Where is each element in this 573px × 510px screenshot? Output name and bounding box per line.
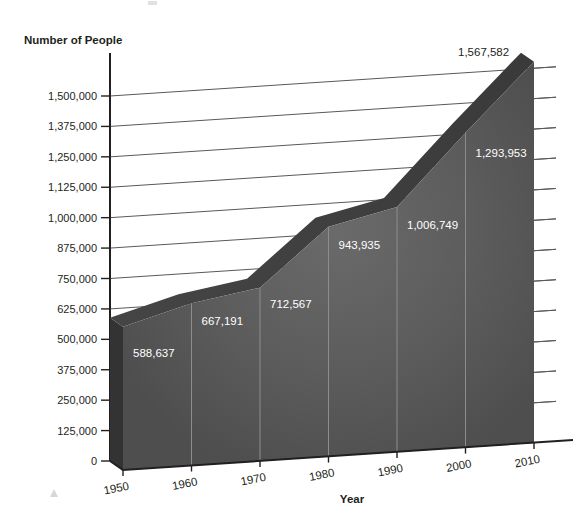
scan-artifact-top bbox=[148, 1, 157, 5]
right-tick-group bbox=[534, 67, 556, 403]
data-value-label: 712,567 bbox=[270, 298, 312, 310]
right-gridline-tick bbox=[534, 128, 556, 129]
x-tick-label: 1960 bbox=[171, 475, 198, 492]
right-gridline-tick bbox=[534, 401, 556, 402]
y-tick-label: 1,500,000 bbox=[48, 90, 97, 102]
x-tick-label: 2000 bbox=[445, 457, 472, 474]
right-gridline-tick bbox=[534, 371, 556, 372]
right-gridline-tick bbox=[534, 219, 556, 220]
data-value-label: 1,567,582 bbox=[458, 46, 509, 58]
data-value-label: 1,293,953 bbox=[476, 147, 527, 159]
x-tick-label: 1950 bbox=[103, 480, 130, 497]
y-tick-label: 500,000 bbox=[57, 333, 97, 345]
right-gridline-tick bbox=[534, 310, 556, 311]
y-tick-label: 375,000 bbox=[57, 364, 97, 376]
y-tick-label: 625,000 bbox=[57, 303, 97, 315]
data-value-label: 943,935 bbox=[339, 239, 381, 251]
area-3d-left-face bbox=[110, 318, 123, 470]
data-value-label: 1,006,749 bbox=[407, 219, 458, 231]
x-tick-label: 1970 bbox=[240, 471, 267, 488]
y-tick-label: 1,375,000 bbox=[48, 120, 97, 132]
x-axis-title: Year bbox=[340, 493, 365, 505]
right-gridline-tick bbox=[534, 249, 556, 250]
y-axis-title: Number of People bbox=[24, 34, 122, 46]
right-gridline-tick bbox=[534, 188, 556, 189]
y-tick-labels: 0125,000250,000375,000500,000625,000750,… bbox=[48, 90, 97, 467]
right-gridline-tick bbox=[534, 67, 556, 68]
y-tick-label: 750,000 bbox=[57, 273, 97, 285]
y-tick-label: 1,250,000 bbox=[48, 151, 97, 163]
data-value-label: 667,191 bbox=[202, 315, 244, 327]
y-tick-label: 0 bbox=[91, 455, 97, 467]
y-tick-label: 875,000 bbox=[57, 242, 97, 254]
x-tick-label: 1980 bbox=[308, 466, 335, 483]
y-tick-label: 1,125,000 bbox=[48, 181, 97, 193]
y-tick-label: 250,000 bbox=[57, 394, 97, 406]
right-gridline-tick bbox=[534, 341, 556, 342]
x-tick-label: 2010 bbox=[514, 453, 541, 470]
right-gridline-tick bbox=[534, 280, 556, 281]
y-tick-label: 1,000,000 bbox=[48, 212, 97, 224]
x-tick-label: 1990 bbox=[377, 462, 404, 479]
right-gridline-tick bbox=[534, 158, 556, 159]
right-gridline-tick bbox=[534, 97, 556, 98]
scan-artifact-bottom bbox=[50, 489, 58, 497]
y-tick-label: 125,000 bbox=[57, 425, 97, 437]
y-tick-group bbox=[101, 96, 110, 461]
chart-canvas: 0125,000250,000375,000500,000625,000750,… bbox=[0, 0, 573, 510]
area-chart: 0125,000250,000375,000500,000625,000750,… bbox=[0, 0, 573, 510]
data-value-label: 588,637 bbox=[133, 347, 175, 359]
